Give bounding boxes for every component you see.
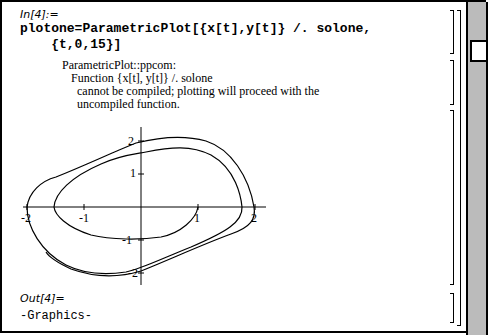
group-cell-bracket[interactable] [457,10,461,326]
message-line-4: uncompiled function. [62,98,180,111]
vertical-scrollbar[interactable] [466,2,488,335]
x-tick-label: 2 [251,211,257,225]
scrollbar-thumb[interactable] [470,40,488,62]
parametric-plot[interactable]: -2 -1 1 2 2 1 -1 -2 [16,120,266,285]
notebook-content: In[4]:= plotone=ParametricPlot[{x[t],y[t… [2,2,466,335]
output-value: -Graphics- [20,309,92,323]
y-tick-label: 2 [128,134,134,148]
input-cell-bracket[interactable] [450,10,454,54]
input-label: In[4]:= [20,8,59,21]
y-tick-label: -2 [128,266,138,280]
input-line-2[interactable]: {t,0,15}] [20,37,121,53]
message-cell-bracket[interactable] [450,60,454,105]
x-tick-label: -2 [21,211,31,225]
output-label: Out[4]= [20,292,65,305]
x-tick-label: 1 [194,211,200,225]
y-tick-label: -1 [122,233,132,247]
output-cell-bracket[interactable] [450,293,454,323]
notebook-window: In[4]:= plotone=ParametricPlot[{x[t],y[t… [0,0,486,333]
y-tick-label: 1 [130,166,136,180]
x-tick-label: -1 [79,211,89,225]
graphics-cell-bracket[interactable] [450,110,454,285]
input-line-1[interactable]: plotone=ParametricPlot[{x[t],y[t]} /. so… [20,21,371,37]
